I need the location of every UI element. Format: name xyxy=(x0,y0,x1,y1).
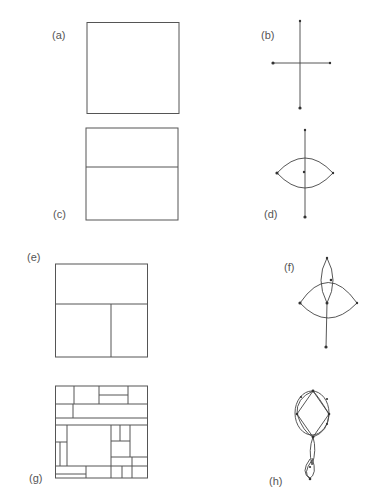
graph-h-node xyxy=(300,396,302,398)
graph-h xyxy=(295,390,330,481)
dissection-a xyxy=(87,23,179,114)
graph-f-edge xyxy=(326,303,327,348)
graph-b-node xyxy=(299,20,301,22)
graph-h-node xyxy=(312,390,315,393)
graph-f-node xyxy=(326,257,328,259)
graph-h-node xyxy=(296,413,299,416)
graph-f-node xyxy=(298,301,301,304)
dissection-e xyxy=(56,264,148,357)
graph-h-node xyxy=(309,478,312,481)
graph-d-node xyxy=(304,129,306,131)
graph-d-node xyxy=(275,171,278,174)
graph-b xyxy=(271,20,331,110)
dissection-g xyxy=(56,386,148,478)
graph-f-edge xyxy=(321,258,327,303)
graph-f xyxy=(298,257,358,349)
graph-h-node xyxy=(326,398,328,400)
graph-f-node xyxy=(326,302,329,305)
graph-f-node xyxy=(324,345,327,348)
graph-d xyxy=(275,129,334,219)
graph-f-node xyxy=(356,302,358,304)
dissection-c xyxy=(86,128,178,220)
graph-d-node xyxy=(303,215,306,218)
graph-d-node xyxy=(332,172,334,174)
dissection-a-outline xyxy=(87,23,179,114)
dissection-e-outline xyxy=(56,264,148,357)
dissection-c-outline xyxy=(86,128,178,220)
figure-canvas xyxy=(0,0,377,500)
dissection-g-dividers xyxy=(56,386,148,478)
graph-h-node xyxy=(326,423,328,425)
graph-b-node xyxy=(298,106,301,109)
graph-h-node xyxy=(309,466,311,468)
graph-f-edge xyxy=(300,303,357,318)
graph-d-node xyxy=(303,171,305,173)
graph-b-node xyxy=(329,62,331,64)
graph-f-node xyxy=(330,279,333,282)
graph-b-node xyxy=(271,61,274,64)
graph-h-node xyxy=(328,413,331,416)
dissection-g-outline xyxy=(56,386,148,478)
graph-h-node xyxy=(312,436,315,439)
